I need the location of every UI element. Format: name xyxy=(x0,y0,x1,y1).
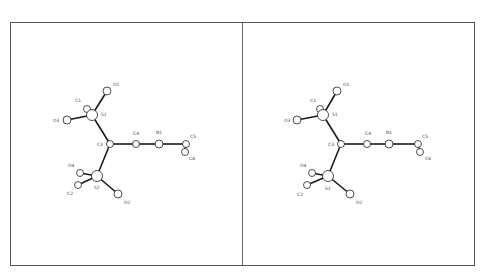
atom-c6-left xyxy=(182,149,189,156)
atom-label-s1-left: S1 xyxy=(101,112,107,117)
atom-o3-left xyxy=(63,116,71,124)
atom-c4-right xyxy=(364,141,371,148)
atom-label-o4-right: O4 xyxy=(300,163,307,168)
atom-c3-left xyxy=(107,141,114,148)
atom-label-c1-right: C1 xyxy=(310,98,316,103)
atom-n1-right xyxy=(385,140,393,148)
atom-label-c6-left: C6 xyxy=(189,156,195,161)
atom-n1-left xyxy=(155,140,163,148)
atom-label-o2-right: O2 xyxy=(356,200,363,205)
atom-label-c4-right: C4 xyxy=(365,131,371,136)
atom-label-s1-right: S1 xyxy=(332,112,338,117)
atom-c6-right xyxy=(417,149,424,156)
atom-label-c4-left: C4 xyxy=(133,131,139,136)
atom-c2-right xyxy=(304,182,311,189)
atom-s2-right xyxy=(323,171,334,182)
atom-label-s2-left: S2 xyxy=(94,185,100,190)
atom-label-n1-left: N1 xyxy=(156,130,162,135)
atoms-layer xyxy=(63,87,424,198)
atom-s1-right xyxy=(318,110,329,121)
atom-label-s2-right: S2 xyxy=(325,186,331,191)
atom-o3-right xyxy=(293,116,301,124)
atom-o2-right xyxy=(346,190,354,198)
atom-label-c1-left: C1 xyxy=(75,98,81,103)
atom-label-o2-left: O2 xyxy=(124,200,131,205)
atom-o4-right xyxy=(309,170,316,177)
atom-label-o3-left: O3 xyxy=(53,118,60,123)
atom-label-c3-right: C3 xyxy=(328,142,334,147)
atom-label-c2-right: C2 xyxy=(297,192,303,197)
atom-label-c5-right: C5 xyxy=(422,134,428,139)
atom-label-o1-left: O1 xyxy=(113,82,120,87)
atom-o1-right xyxy=(333,87,341,95)
atom-c5-right xyxy=(415,141,422,148)
atom-label-c3-left: C3 xyxy=(97,142,103,147)
atom-label-c6-right: C6 xyxy=(425,156,431,161)
atom-o1-left xyxy=(103,87,111,95)
atom-label-c5-left: C5 xyxy=(190,134,196,139)
atom-label-n1-right: N1 xyxy=(386,130,392,135)
atom-label-c2-left: C2 xyxy=(67,191,73,196)
atom-c4-left xyxy=(133,141,140,148)
atom-label-o3-right: O3 xyxy=(284,118,291,123)
atom-label-o4-left: O4 xyxy=(68,163,75,168)
atom-s2-left xyxy=(92,171,103,182)
atom-s1-left xyxy=(87,110,98,121)
atom-c3-right xyxy=(338,141,345,148)
molecule-stereo-view: O1C1S1O3C3C4N1C5C6O4C2S2O2O1C1S1O3C3C4N1… xyxy=(0,0,489,275)
atom-o4-left xyxy=(77,170,84,177)
atom-c2-left xyxy=(75,182,82,189)
atom-c5-left xyxy=(183,141,190,148)
atom-o2-left xyxy=(114,190,122,198)
atom-label-o1-right: O1 xyxy=(343,82,350,87)
